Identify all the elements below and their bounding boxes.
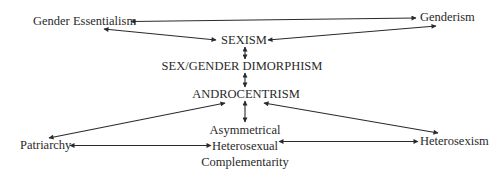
node-heterosexism: Heterosexism [420,134,489,149]
node-patriarchy: Patriarchy [20,138,71,153]
node-asymmetrical-line1: Asymmetrical [201,122,288,138]
node-sex-gender-dimorphism: SEX/GENDER DIMORPHISM [162,59,323,74]
arrow-androcentrism-patriarchy [49,103,225,138]
arrow-genderism-sexism [268,26,436,40]
arrow-androcentrism-heterosexism [264,103,438,133]
node-asymmetrical-line2: Heterosexual [201,138,288,154]
node-asymmetrical-heterosexual-complementarity: Asymmetrical Heterosexual Complementarit… [201,122,288,170]
node-androcentrism: ANDROCENTRISM [192,87,300,102]
arrow-essentialism-sexism [104,29,216,40]
node-sexism: SEXISM [221,33,267,48]
arrow-essentialism-genderism [131,18,416,22]
concept-diagram: Gender Essentialism Genderism SEXISM SEX… [0,0,504,175]
node-asymmetrical-line3: Complementarity [201,154,288,170]
node-genderism: Genderism [420,10,475,25]
node-gender-essentialism: Gender Essentialism [33,14,136,29]
